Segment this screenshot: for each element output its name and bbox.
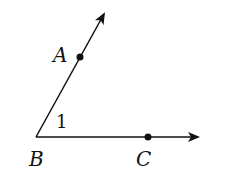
- point-a: [77, 54, 84, 61]
- label-c: C: [136, 147, 151, 171]
- ray-ba: [36, 14, 104, 137]
- label-b: B: [28, 147, 44, 171]
- label-a: A: [51, 43, 67, 67]
- point-c: [145, 134, 152, 141]
- angle-diagram: A B C 1: [0, 0, 232, 186]
- angle-label-1: 1: [56, 111, 67, 132]
